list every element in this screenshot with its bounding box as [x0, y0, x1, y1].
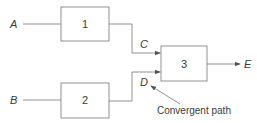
input-label-a: A [9, 18, 17, 30]
edge-c-1-to-3 [109, 24, 160, 53]
block-2-label: 2 [82, 94, 88, 106]
convergent-path-pointer-arrow [151, 86, 180, 104]
signal-label-d: D [140, 76, 148, 88]
block-diagram: A B 1 2 3 C D E Convergent path [0, 0, 257, 123]
signal-label-c: C [140, 38, 148, 50]
block-3-label: 3 [181, 58, 187, 70]
annotation-convergent-path: Convergent path [157, 105, 231, 116]
output-label-e: E [244, 58, 252, 70]
block-1-label: 1 [82, 18, 88, 30]
input-label-b: B [10, 94, 17, 106]
